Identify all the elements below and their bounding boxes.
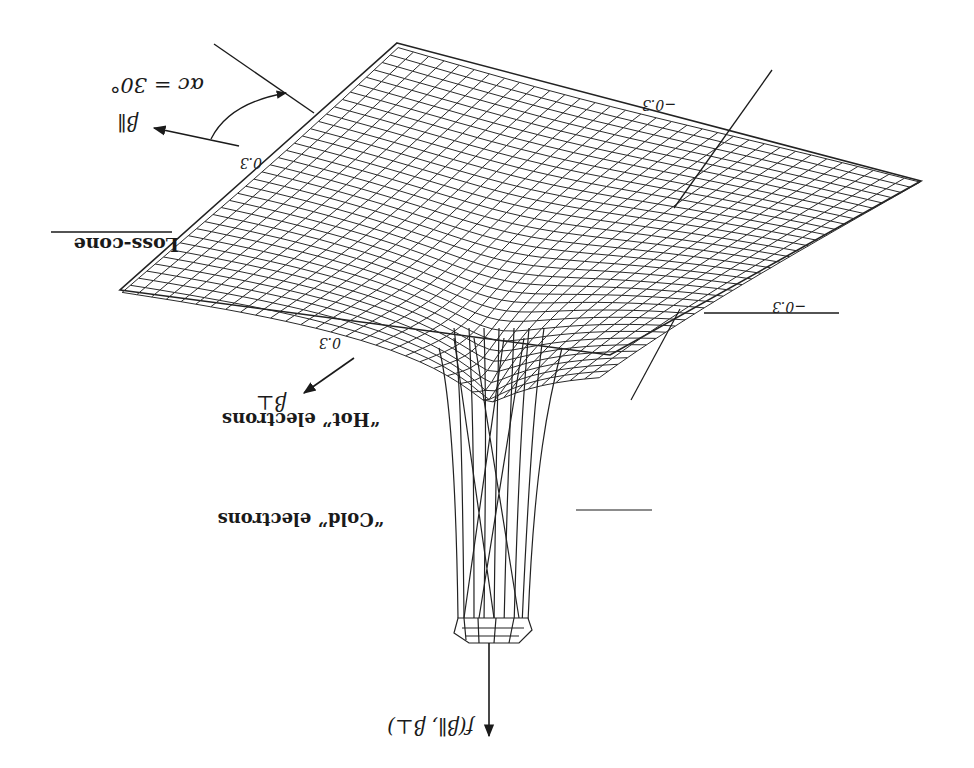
tick-perp-pos: 0.3 [319, 335, 341, 351]
z-axis-label: f(β∥, β⊥) [387, 715, 476, 739]
tick-par-pos: 0.3 [240, 155, 262, 171]
loss-cone-line [214, 44, 314, 113]
angle-label: αc = 30° [110, 73, 204, 97]
beta-par-label: β∥ [117, 111, 139, 135]
cold-electrons-label: “Cold” electrons [218, 509, 384, 530]
tick-par-neg: −0.3 [642, 97, 676, 113]
angle-arc [211, 93, 286, 139]
loss-cone-distribution-figure: f(β∥, β⊥) β∥ β⊥ Loss-cone αc = 30° “Hot”… [0, 0, 974, 768]
beta-par-axis [154, 128, 239, 146]
hot-electrons-label: “Hot” electrons [222, 409, 380, 430]
beta-perp-axis [304, 358, 354, 393]
wireframe-surface [120, 43, 921, 643]
loss-cone-label: Loss-cone [74, 234, 179, 256]
tick-perp-neg: −0.3 [772, 299, 806, 315]
